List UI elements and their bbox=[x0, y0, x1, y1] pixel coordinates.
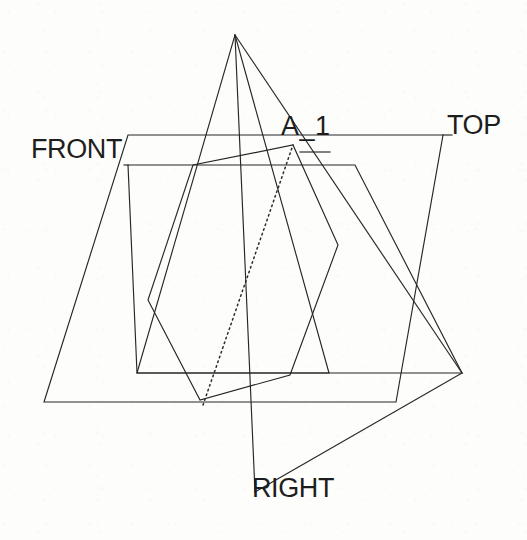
technical-drawing-canvas: FRONT TOP RIGHT A_1 bbox=[0, 0, 527, 540]
projection-plane-diagram bbox=[0, 0, 527, 540]
front-view-label: FRONT bbox=[31, 136, 122, 163]
right-view-label: RIGHT bbox=[252, 475, 334, 502]
auxiliary-axis-label: A_1 bbox=[281, 113, 331, 140]
top-projection-plane bbox=[44, 135, 443, 402]
right-plane-upper-diagonal bbox=[235, 35, 462, 373]
hidden-edge-dotted bbox=[203, 145, 293, 405]
front-projection-plane bbox=[128, 165, 462, 373]
intersection-hexagon bbox=[148, 145, 338, 400]
upward-projection-triangle bbox=[137, 35, 329, 373]
top-view-label: TOP bbox=[447, 112, 501, 139]
